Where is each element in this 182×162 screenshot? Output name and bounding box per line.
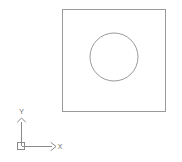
drawing-entities — [63, 10, 166, 112]
inner-circle[interactable] — [90, 33, 138, 81]
cad-drawing-viewport[interactable]: Y X — [0, 0, 182, 162]
ucs-coordinate-icon[interactable]: Y X — [18, 108, 63, 151]
ucs-x-axis-label: X — [58, 143, 63, 150]
ucs-y-arrow-icon — [18, 118, 26, 122]
square-outline[interactable] — [63, 10, 166, 112]
cad-drawing-canvas[interactable]: Y X — [0, 0, 182, 162]
ucs-y-axis-label: Y — [19, 108, 24, 115]
